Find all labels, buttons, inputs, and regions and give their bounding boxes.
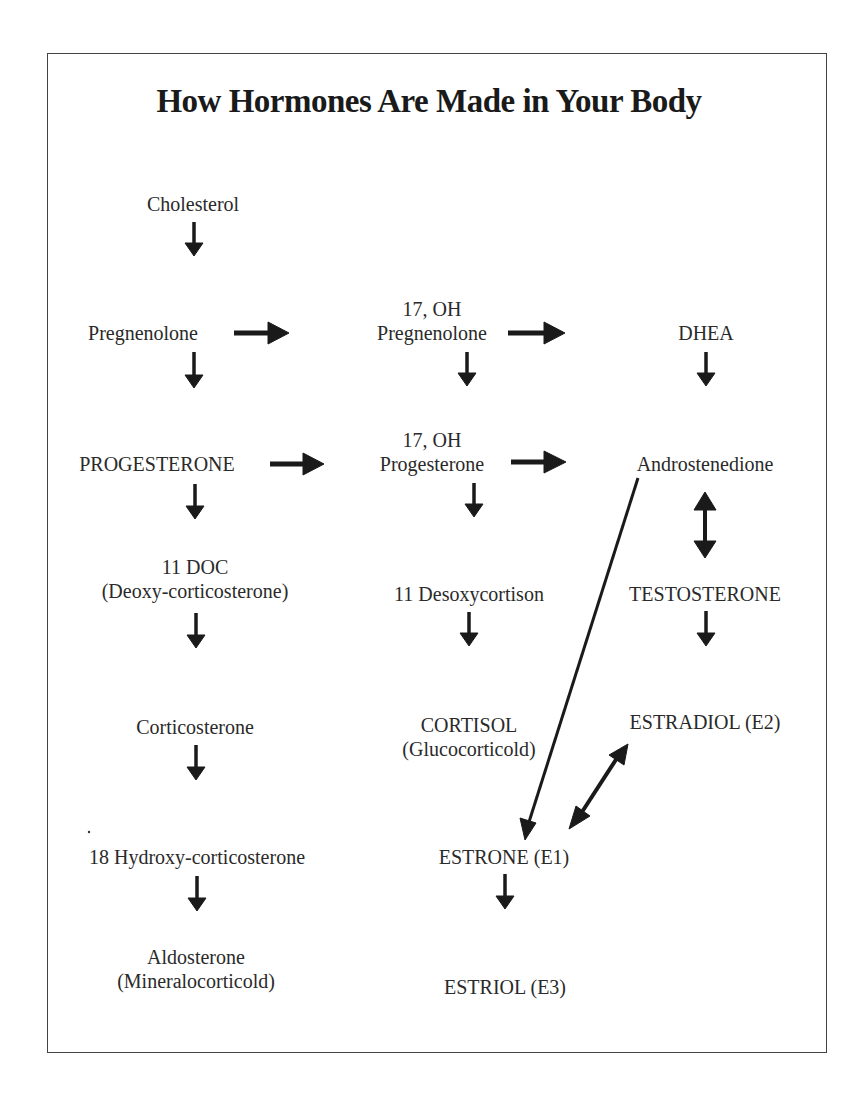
arrow-pregnenolone-to-progesterone-icon bbox=[185, 352, 203, 388]
arrow-11desoxycortison-to-cortisol-icon bbox=[460, 612, 478, 646]
arrow-17oh-pregnenolone-to-dhea-icon bbox=[508, 322, 565, 344]
arrow-corticosterone-to-18hydroxy-icon bbox=[187, 745, 205, 780]
arrow-17oh-progesterone-to-androstenedione-icon bbox=[511, 451, 566, 473]
arrow-18hydroxy-to-aldosterone-icon bbox=[188, 876, 206, 911]
arrow-testosterone-to-estradiol-icon bbox=[697, 611, 715, 646]
arrow-pregnenolone-to-17oh-pregnenolone-icon bbox=[234, 322, 289, 344]
arrow-17oh-progesterone-to-11desoxycortison-icon bbox=[465, 483, 483, 517]
arrow-androstenedione-to-estrone-icon bbox=[520, 478, 638, 840]
arrow-11doc-to-corticosterone-icon bbox=[187, 613, 205, 648]
arrow-17oh-pregnenolone-to-17oh-progesterone-icon bbox=[458, 352, 476, 386]
arrow-androstenedione-testosterone-bidirectional-head-icon bbox=[694, 541, 716, 558]
arrow-progesterone-to-17oh-progesterone-icon bbox=[270, 453, 324, 475]
arrow-dhea-to-androstenedione-icon bbox=[697, 352, 715, 386]
arrows-layer bbox=[0, 0, 858, 1103]
arrow-cholesterol-to-pregnenolone-icon bbox=[185, 222, 203, 256]
arrow-estradiol-estrone-bidirectional-icon bbox=[569, 744, 628, 829]
stray-dot bbox=[88, 831, 90, 833]
arrow-androstenedione-testosterone-bidirectional-icon bbox=[694, 492, 716, 545]
arrow-progesterone-to-11doc-icon bbox=[186, 484, 204, 519]
arrow-estrone-to-estriol-icon bbox=[496, 874, 514, 909]
